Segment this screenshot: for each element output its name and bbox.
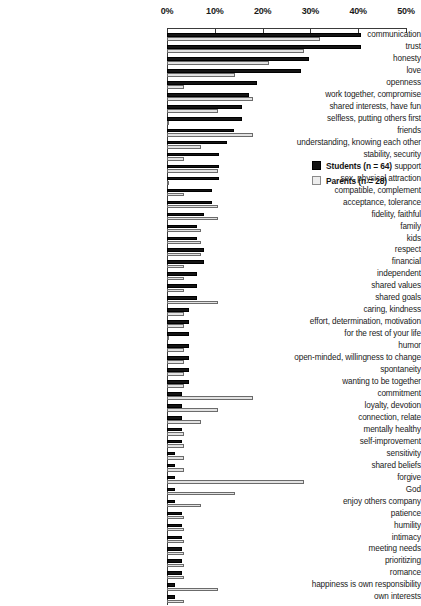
category-label: friends: [257, 127, 421, 135]
bar-parents: [167, 312, 184, 316]
x-axis-tick-label: 10%: [206, 6, 223, 16]
bar-students: [167, 69, 301, 73]
legend-swatch-parents: [312, 176, 321, 185]
bar-parents: [167, 576, 184, 580]
category-label: kids: [257, 235, 421, 243]
chart-category-row: own interests: [0, 593, 421, 605]
chart-category-row: independent: [0, 270, 421, 282]
category-label: caring, kindness: [257, 306, 421, 314]
chart-category-row: prioritizing: [0, 557, 421, 569]
bar-parents: [167, 588, 218, 592]
bar-parents: [167, 205, 218, 209]
bar-students: [167, 344, 189, 348]
chart-category-row: intimacy: [0, 533, 421, 545]
bar-students: [167, 500, 175, 504]
category-label: shared interests, have fun: [257, 103, 421, 111]
category-label: respect: [257, 246, 421, 254]
bar-parents: [167, 456, 184, 460]
bar-parents: [167, 420, 201, 424]
chart-category-row: shared interests, have fun: [0, 103, 421, 115]
category-label: open-minded, willingness to change: [257, 354, 421, 362]
legend-label: Students (n = 64): [326, 161, 392, 171]
chart-category-row: loyalty, devotion: [0, 402, 421, 414]
bar-parents: [167, 253, 201, 257]
bar-students: [167, 380, 189, 384]
bar-parents: [167, 73, 235, 77]
chart-category-row: acceptance, tolerance: [0, 198, 421, 210]
bar-students: [167, 583, 175, 587]
chart-category-row: sensitivity: [0, 450, 421, 462]
chart-category-row: trust: [0, 43, 421, 55]
bar-students: [167, 559, 182, 563]
bar-parents: [167, 265, 184, 269]
category-label: commitment: [257, 390, 421, 398]
bar-students: [167, 440, 182, 444]
bar-students: [167, 189, 212, 193]
bar-students: [167, 141, 227, 145]
bar-parents: [167, 61, 269, 65]
bar-students: [167, 105, 242, 109]
bar-students: [167, 476, 175, 480]
category-label: work together, compromise: [257, 91, 421, 99]
chart-category-row: self-improvement: [0, 438, 421, 450]
chart-category-row: connection, relate: [0, 414, 421, 426]
bar-parents: [167, 516, 184, 520]
bar-parents: [167, 396, 253, 400]
bar-parents: [167, 528, 184, 532]
bar-students: [167, 117, 242, 121]
bar-students: [167, 248, 204, 252]
bar-students: [167, 225, 197, 229]
horizontal-bar-chart: 0%10%20%30%40%50% communicationtrusthone…: [0, 0, 421, 606]
bar-students: [167, 595, 175, 599]
chart-category-row: open-minded, willingness to change: [0, 354, 421, 366]
category-label: shared goals: [257, 294, 421, 302]
bar-students: [167, 33, 361, 37]
category-label: openness: [257, 79, 421, 87]
bar-students: [167, 308, 189, 312]
chart-category-row: shared values: [0, 282, 421, 294]
chart-category-row: work together, compromise: [0, 91, 421, 103]
chart-category-row: openness: [0, 79, 421, 91]
chart-category-row: meeting needs: [0, 545, 421, 557]
bar-students: [167, 284, 197, 288]
bar-students: [167, 129, 234, 133]
bar-parents: [167, 480, 304, 484]
bar-students: [167, 488, 175, 492]
bar-parents: [167, 133, 253, 137]
category-label: shared values: [257, 282, 421, 290]
bar-students: [167, 452, 175, 456]
chart-category-row: respect: [0, 246, 421, 258]
bar-parents: [167, 97, 253, 101]
bar-students: [167, 45, 361, 49]
bar-students: [167, 571, 182, 575]
bar-parents: [167, 564, 184, 568]
category-label: family: [257, 223, 421, 231]
bar-students: [167, 536, 182, 540]
chart-category-row: kids: [0, 234, 421, 246]
bar-parents: [167, 37, 320, 41]
bar-parents: [167, 444, 184, 448]
category-label: acceptance, tolerance: [257, 199, 421, 207]
chart-category-row: mentally healthy: [0, 426, 421, 438]
bar-parents: [167, 121, 169, 125]
bar-students: [167, 237, 197, 241]
bar-parents: [167, 552, 184, 556]
category-label: patience: [257, 510, 421, 518]
category-label: sensitivity: [257, 450, 421, 458]
chart-category-row: wanting to be together: [0, 378, 421, 390]
bar-parents: [167, 348, 184, 352]
chart-category-row: fidelity, faithful: [0, 210, 421, 222]
x-axis-tick-label: 0%: [161, 6, 174, 16]
category-label: self-improvement: [257, 438, 421, 446]
category-label: meeting needs: [257, 545, 421, 553]
bar-students: [167, 404, 182, 408]
bar-parents: [167, 289, 184, 293]
bar-students: [167, 272, 197, 276]
x-axis-tick-label: 50%: [397, 6, 414, 16]
bar-parents: [167, 336, 169, 340]
chart-category-row: communication: [0, 31, 421, 43]
bar-parents: [167, 241, 201, 245]
chart-category-row: friends: [0, 127, 421, 139]
category-label: financial: [257, 258, 421, 266]
bar-students: [167, 320, 189, 324]
